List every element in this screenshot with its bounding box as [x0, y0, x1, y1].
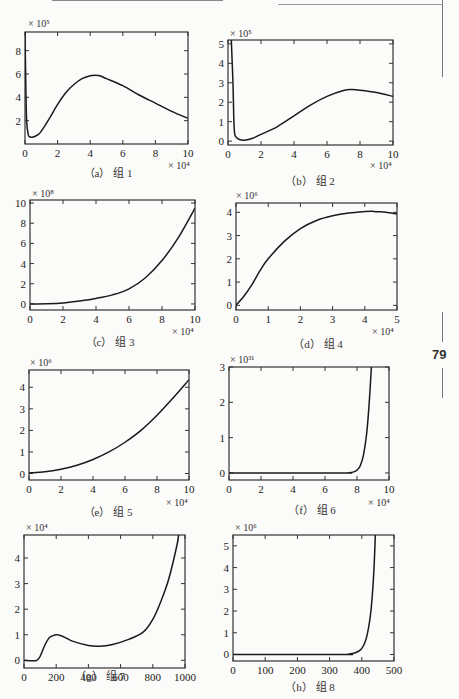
- y-tick-label: 0: [20, 468, 26, 480]
- figure-caption: （b） 组 2: [285, 172, 335, 188]
- x-axis-multiplier: × 10⁴: [368, 497, 390, 508]
- data-curve: [24, 535, 179, 661]
- y-tick-label: 4: [15, 552, 21, 564]
- axes-frame: [30, 200, 195, 310]
- x-tick-label: 2: [58, 483, 64, 495]
- data-curve: [229, 367, 371, 473]
- figure-panel-b: 0246810012345× 10⁵× 10⁴（b） 组 2: [228, 40, 393, 145]
- y-tick-label: 0: [224, 648, 230, 660]
- y-tick-label: 3: [219, 77, 225, 89]
- x-axis-multiplier: × 10⁴: [172, 326, 194, 337]
- x-tick-label: 8: [354, 483, 360, 495]
- axes-frame: [229, 367, 389, 480]
- axes-frame: [236, 203, 397, 310]
- figure-panel-d: 01234501234× 10⁶× 10⁴（d） 组 4: [236, 203, 397, 310]
- x-tick-label: 6: [120, 147, 126, 159]
- data-curve: [29, 380, 189, 473]
- y-tick-label: 4: [20, 381, 26, 393]
- x-tick-label: 8: [154, 483, 160, 495]
- x-tick-label: 2: [298, 313, 304, 325]
- margin-rule-lower: [442, 368, 443, 398]
- x-tick-label: 2: [60, 313, 66, 325]
- x-tick-label: 300: [321, 664, 338, 676]
- data-curve: [25, 32, 188, 137]
- figure-caption: （c） 组 3: [86, 333, 135, 349]
- y-tick-label: 8: [16, 45, 22, 57]
- x-tick-label: 0: [26, 483, 32, 495]
- y-tick-label: 4: [219, 57, 225, 69]
- y-tick-label: 2: [227, 253, 233, 265]
- x-tick-label: 0: [230, 664, 236, 676]
- figure-panel-c: 02468100246810× 10⁸× 10⁴（c） 组 3: [30, 200, 195, 310]
- y-axis-multiplier: × 10⁸: [32, 188, 54, 199]
- x-tick-label: 500: [386, 664, 403, 676]
- x-tick-label: 0: [225, 148, 231, 160]
- y-tick-label: 0: [227, 299, 233, 311]
- figure-panel-h: 0100200300400500012345× 10⁶（h） 组 8: [233, 535, 394, 661]
- y-axis-multiplier: × 10⁵: [230, 28, 252, 39]
- x-tick-label: 3: [330, 313, 336, 325]
- figure-panel-f: 02468100123× 10³¹× 10⁴（f） 组 6: [229, 367, 389, 480]
- y-tick-label: 4: [224, 562, 230, 574]
- plot-area: 0100200300400500012345: [233, 535, 394, 661]
- x-tick-label: 4: [87, 147, 93, 159]
- data-curve: [233, 535, 375, 655]
- axes-frame: [29, 370, 189, 480]
- y-tick-label: 2: [224, 605, 230, 617]
- margin-rule-upper: [442, 312, 443, 342]
- y-tick-label: 3: [227, 230, 233, 242]
- x-tick-label: 6: [324, 148, 330, 160]
- figure-caption: （a） 组 1: [84, 164, 133, 180]
- x-axis-multiplier: × 10⁴: [372, 326, 394, 337]
- plot-area: 0246810012345: [228, 40, 393, 145]
- y-tick-label: 3: [20, 403, 26, 415]
- data-curve: [231, 40, 393, 140]
- page-number: 79: [432, 347, 446, 362]
- y-axis-multiplier: × 10⁶: [30, 357, 52, 368]
- plot-area: 02468100123: [229, 367, 389, 480]
- y-tick-label: 4: [227, 206, 233, 218]
- x-tick-label: 2: [258, 483, 264, 495]
- x-axis-multiplier: × 10⁴: [168, 160, 190, 171]
- figure-caption: （h） 组 8: [285, 678, 335, 694]
- x-tick-label: 10: [384, 483, 396, 495]
- x-tick-label: 6: [122, 483, 128, 495]
- axes-frame: [25, 32, 188, 144]
- y-tick-label: 2: [20, 424, 26, 436]
- y-axis-multiplier: × 10⁶: [236, 190, 258, 201]
- y-tick-label: 1: [15, 629, 21, 641]
- x-axis-multiplier: × 10⁴: [166, 497, 188, 508]
- y-tick-label: 1: [220, 432, 226, 444]
- y-tick-label: 2: [16, 115, 22, 127]
- figure-panel-e: 024681001234× 10⁶× 10⁴（e） 组 5: [29, 370, 189, 480]
- x-tick-label: 8: [357, 148, 363, 160]
- y-tick-label: 2: [220, 396, 226, 408]
- y-tick-label: 0: [21, 298, 27, 310]
- x-tick-label: 6: [126, 313, 132, 325]
- y-tick-label: 8: [21, 217, 27, 229]
- y-tick-label: 2: [15, 603, 21, 615]
- figure-caption: （g） 组 7: [75, 667, 125, 683]
- x-axis-multiplier: × 10⁴: [370, 160, 392, 171]
- x-tick-label: 1: [265, 313, 271, 325]
- header-rule: [52, 0, 223, 1]
- margin-rule-top: [442, 0, 443, 77]
- y-tick-label: 10: [15, 197, 27, 209]
- data-curve: [236, 211, 397, 305]
- plot-area: 024681001234: [29, 370, 189, 480]
- axes-frame: [233, 535, 394, 661]
- y-tick-label: 1: [227, 276, 233, 288]
- y-tick-label: 6: [21, 237, 27, 249]
- x-tick-label: 0: [27, 313, 33, 325]
- y-tick-label: 6: [16, 68, 22, 80]
- y-tick-label: 0: [15, 654, 21, 666]
- y-tick-label: 0: [219, 135, 225, 147]
- y-tick-label: 3: [220, 361, 226, 373]
- x-tick-label: 0: [21, 671, 27, 683]
- y-tick-label: 1: [20, 446, 26, 458]
- x-tick-label: 200: [48, 671, 65, 683]
- figure-panel-a: 02468102468× 10⁵× 10⁴（a） 组 1: [25, 32, 188, 144]
- x-tick-label: 1000: [174, 671, 197, 683]
- plot-area: 02468102468: [25, 32, 188, 144]
- x-tick-label: 8: [159, 313, 165, 325]
